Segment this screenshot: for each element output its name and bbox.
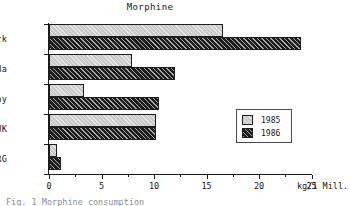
bar-denmark-1986 xyxy=(49,37,301,50)
bar-norway-1986 xyxy=(49,97,159,110)
y-tick xyxy=(44,84,49,85)
legend-item-1986: 1986 xyxy=(242,127,280,139)
figure-caption: Fig. 1 Morphine consumption xyxy=(6,197,144,206)
x-tick-major xyxy=(312,175,313,179)
x-tick-major xyxy=(102,175,103,179)
y-axis-label-frg: FRG xyxy=(0,154,7,164)
y-axis-label-canada: Canada xyxy=(0,64,7,74)
x-tick-minor xyxy=(75,175,76,177)
legend-item-1985: 1985 xyxy=(242,114,280,126)
x-tick-major xyxy=(259,175,260,179)
legend-label-1986: 1986 xyxy=(261,129,280,138)
bar-frg-1985 xyxy=(49,144,57,157)
bar-group: FRG xyxy=(49,144,311,174)
y-tick xyxy=(44,114,49,115)
x-tick-label: 0 xyxy=(29,181,69,191)
bar-group: Canada xyxy=(49,54,311,84)
plot-area: DenmarkCanadaNorwayUKFRG xyxy=(49,24,311,174)
x-tick-minor xyxy=(233,175,234,177)
bar-frg-1986 xyxy=(49,157,61,170)
x-tick-major xyxy=(154,175,155,179)
x-tick-minor xyxy=(285,175,286,177)
bar-denmark-1985 xyxy=(49,24,223,37)
y-tick xyxy=(44,24,49,25)
chart-title: Morphine xyxy=(0,2,300,12)
x-tick-label: 15 xyxy=(187,181,227,191)
y-tick xyxy=(44,144,49,145)
legend-swatch-1986 xyxy=(242,128,253,138)
x-tick-label: 20 xyxy=(239,181,279,191)
x-tick-label: 10 xyxy=(134,181,174,191)
x-tick-major xyxy=(49,175,50,179)
x-axis-unit-label: kg/1 Mill. xyxy=(297,181,348,191)
bar-uk-1985 xyxy=(49,114,156,127)
y-axis-label-uk: UK xyxy=(0,124,7,134)
chart-figure: Morphine DenmarkCanadaNorwayUKFRG 051015… xyxy=(0,0,350,206)
x-tick-minor xyxy=(128,175,129,177)
chart-legend: 1985 1986 xyxy=(236,109,292,143)
bar-group: Denmark xyxy=(49,24,311,54)
legend-label-1985: 1985 xyxy=(261,116,280,125)
x-tick-major xyxy=(207,175,208,179)
x-tick-label: 5 xyxy=(82,181,122,191)
y-axis-label-denmark: Denmark xyxy=(0,34,7,44)
bar-canada-1985 xyxy=(49,54,132,67)
bar-norway-1985 xyxy=(49,84,84,97)
y-tick xyxy=(44,54,49,55)
legend-swatch-1985 xyxy=(242,115,253,125)
y-axis-label-norway: Norway xyxy=(0,94,7,104)
bar-canada-1986 xyxy=(49,67,175,80)
bar-uk-1986 xyxy=(49,127,156,140)
x-tick-minor xyxy=(180,175,181,177)
